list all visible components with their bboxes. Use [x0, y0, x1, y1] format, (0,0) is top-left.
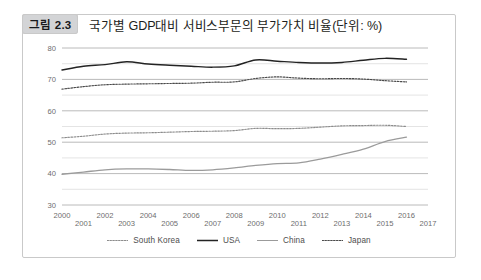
figure-title: 국가별 GDP대비 서비스부문의 부가가치 비율(단위: %) — [89, 15, 382, 34]
line-chart: 8070605040302000200120022003200420052006… — [22, 38, 456, 233]
series-line-south-korea — [62, 125, 406, 138]
x-axis-tick-label: 2005 — [161, 219, 178, 228]
x-axis-tick-label: 2007 — [204, 219, 221, 228]
solid-line-icon — [197, 237, 218, 244]
x-axis-tick-label: 2008 — [226, 211, 243, 220]
chart-plot-area: 8070605040302000200120022003200420052006… — [22, 38, 456, 258]
y-axis-tick-label: 30 — [48, 201, 56, 210]
legend-item-japan[interactable]: Japan — [322, 236, 371, 245]
y-axis-tick-label: 50 — [48, 138, 56, 147]
x-axis-tick-label: 2006 — [183, 211, 200, 220]
series-line-usa — [62, 58, 406, 70]
dotted-line-icon — [322, 237, 343, 244]
legend-label: China — [283, 236, 305, 245]
x-axis-tick-label: 2010 — [269, 211, 286, 220]
y-axis-tick-label: 80 — [48, 44, 56, 53]
x-axis-tick-label: 2014 — [355, 211, 372, 220]
y-axis-tick-label: 40 — [48, 169, 56, 178]
x-axis-tick-label: 2012 — [312, 211, 329, 220]
legend-label: USA — [223, 236, 240, 245]
legend-label: Japan — [348, 236, 371, 245]
figure-header: 그림 2.3 국가별 GDP대비 서비스부문의 부가가치 비율(단위: %) — [22, 12, 382, 36]
chart-legend: South KoreaUSAChinaJapan — [22, 236, 456, 245]
figure-number-badge: 그림 2.3 — [22, 14, 78, 34]
dotted-line-icon — [107, 237, 128, 244]
x-axis-tick-label: 2015 — [376, 219, 393, 228]
y-axis-tick-label: 70 — [48, 75, 56, 84]
x-axis-tick-label: 2016 — [398, 211, 415, 220]
x-axis-tick-label: 2004 — [140, 211, 157, 220]
x-axis-tick-label: 2003 — [118, 219, 135, 228]
x-axis-tick-label: 2013 — [333, 219, 350, 228]
x-axis-tick-label: 2001 — [75, 219, 92, 228]
x-axis-tick-label: 2000 — [54, 211, 71, 220]
x-axis-tick-label: 2002 — [97, 211, 114, 220]
legend-item-south-korea[interactable]: South Korea — [107, 236, 180, 245]
legend-label: South Korea — [133, 236, 180, 245]
x-axis-tick-label: 2009 — [247, 219, 264, 228]
series-line-china — [62, 137, 406, 174]
x-axis-tick-label: 2011 — [291, 219, 307, 228]
series-line-japan — [62, 77, 406, 89]
solid-line-icon — [257, 237, 278, 244]
x-axis-tick-label: 2017 — [420, 219, 437, 228]
legend-item-usa[interactable]: USA — [197, 236, 240, 245]
legend-item-china[interactable]: China — [257, 236, 305, 245]
y-axis-tick-label: 60 — [48, 107, 56, 116]
